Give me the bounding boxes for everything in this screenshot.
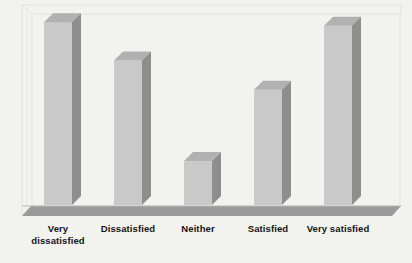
bar-column[interactable] bbox=[184, 152, 221, 205]
bar-front-face bbox=[44, 22, 72, 205]
chart-floor bbox=[22, 206, 401, 217]
bar-column[interactable] bbox=[254, 81, 291, 205]
chart-canvas: VerydissatisfiedDissatisfiedNeitherSatis… bbox=[0, 0, 412, 263]
bar-front-face bbox=[254, 90, 282, 205]
category-label: Dissatisfied bbox=[101, 223, 156, 234]
bar-front-face bbox=[184, 161, 212, 205]
category-label: Very satisfied bbox=[307, 223, 370, 234]
bar-side-face bbox=[212, 152, 221, 205]
bar-side-face bbox=[142, 52, 151, 205]
bar-chart: VerydissatisfiedDissatisfiedNeitherSatis… bbox=[0, 0, 412, 263]
category-label: Satisfied bbox=[248, 223, 289, 234]
category-label: Neither bbox=[181, 223, 215, 234]
bar-side-face bbox=[282, 81, 291, 205]
bar-column[interactable] bbox=[324, 17, 361, 205]
bar-front-face bbox=[114, 61, 142, 205]
bar-front-face bbox=[324, 26, 352, 205]
bar-side-face bbox=[352, 17, 361, 205]
bar-column[interactable] bbox=[44, 13, 81, 205]
bar-side-face bbox=[72, 13, 81, 205]
bar-column[interactable] bbox=[114, 52, 151, 205]
